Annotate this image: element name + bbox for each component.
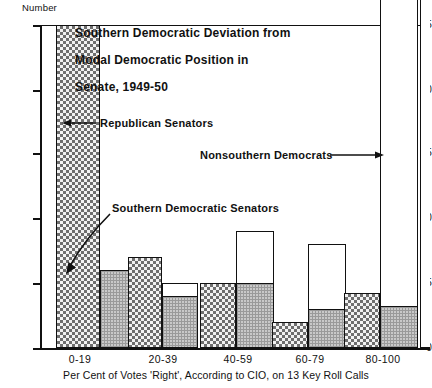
x-tick-label-80-100: 80-100 [365,353,400,365]
y-tick-mark-25 [33,25,41,27]
southern-democratic-bar-40-59 [236,283,274,348]
democrat-stack-40-59 [236,231,274,348]
chart-title-line-3: Senate, 1949-50 [75,74,291,101]
southern-democratic-bar-20-39 [162,296,198,348]
y-tick-mark-15 [33,153,41,155]
chart-title: Southern Democratic Deviation from Modal… [75,20,291,101]
annotation-nonsouthern-democrats: Nonsouthern Democrats [200,149,333,161]
annotation-southern-democratic-senators: Southern Democratic Senators [112,202,279,214]
x-axis-line [40,348,430,350]
democrat-stack-60-79 [308,244,346,348]
republican-bar-60-79 [272,322,308,348]
plot-right-edge-column [420,0,430,348]
x-tick-label-0-19: 0-19 [69,353,92,365]
chart-title-line-2: Modal Democratic Position in [75,47,291,74]
x-axis-title: Per Cent of Votes 'Right', According to … [63,369,369,381]
x-tick-label-20-39: 20-39 [149,353,178,365]
chart-title-line-1: Southern Democratic Deviation from [75,20,291,47]
southern-democratic-bar-80-100 [380,306,418,348]
x-tick-label-60-79: 60-79 [296,353,325,365]
nonsouthern-democrat-bar-80-100 [380,0,418,348]
southern-democratic-bar-60-79 [308,309,346,348]
plot-right-edge-segment [420,0,430,348]
annotation-republican-senators: Republican Senators [100,117,213,129]
democrat-stack-80-100 [380,0,418,348]
democrat-stack-20-39 [162,283,198,348]
republican-bar-80-100 [344,293,380,348]
y-tick-mark-5 [33,283,41,285]
y-tick-mark-0 [33,348,41,350]
x-tick-label-40-59: 40-59 [224,353,253,365]
republican-bar-40-59 [200,283,236,348]
chart-figure: Number 0 5 10 15 20 25 [0,0,432,388]
republican-bar-20-39 [128,257,162,348]
y-tick-mark-20 [33,90,41,92]
y-tick-mark-10 [33,218,41,220]
